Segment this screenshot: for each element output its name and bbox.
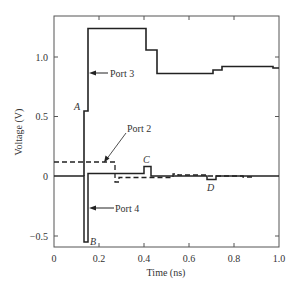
x-axis-title: Time (ns) [147,267,186,279]
annotation-c: C [143,154,150,165]
y-tick-label: 0 [43,171,48,182]
port3-arrow [89,71,108,76]
annotation-b: B [90,236,96,247]
x-tick-label: 0 [52,253,57,264]
x-tick-label: 0.6 [183,253,196,264]
x-tick-label: 0.8 [228,253,241,264]
y-axis-title: Voltage (V) [13,109,25,156]
y-tick-label: −0.5 [30,231,48,242]
y-tick-label: 1.0 [36,52,49,63]
annotation-d: D [206,182,215,193]
port4-label: Port 4 [115,203,139,214]
x-tick-label: 0.4 [138,253,151,264]
x-tick-label: 0.2 [93,253,106,264]
port3-label: Port 3 [110,68,134,79]
x-tick-label: 1.0 [273,253,286,264]
annotation-a: A [73,101,81,112]
port3-trace [84,29,279,177]
port4-arrow [89,206,114,211]
voltage-time-chart: 0 0.2 0.4 0.6 0.8 1.0 1.0 0.5 0 −0.5 Tim… [0,0,298,292]
port2-arrow [104,133,126,163]
port2-label: Port 2 [127,123,151,134]
y-tick-label: 0.5 [36,111,49,122]
